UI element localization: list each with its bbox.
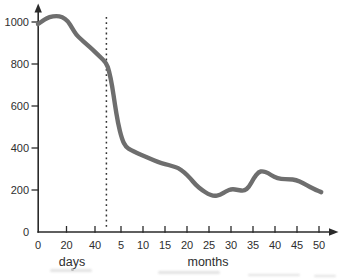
y-tick-label: 1000 [5,16,29,28]
y-tick-label: 200 [11,184,29,196]
x-tick-label-months: 40 [269,239,281,251]
x-tick-label-months: 25 [203,239,215,251]
x-tick-label-months: 10 [137,239,149,251]
x-tick-label-months: 30 [225,239,237,251]
x-tick-label-months: 5 [118,239,124,251]
x-axis-label-months: months [188,255,229,269]
x-tick-label-months: 20 [181,239,193,251]
scan-artifact [158,271,220,274]
y-tick-label: 0 [23,226,29,238]
x-tick-label-months: 35 [247,239,259,251]
y-tick-label: 400 [11,142,29,154]
scan-artifact [248,274,300,276]
x-tick-label-days: 40 [89,239,101,251]
line-chart: 0200400600800100002040510152025303540455… [0,0,344,280]
curve-layer [38,16,321,196]
y-tick-label: 800 [11,58,29,70]
x-tick-label-days: 20 [60,239,72,251]
scanned-chart-figure: 0200400600800100002040510152025303540455… [0,0,344,280]
x-tick-label-months: 15 [159,239,171,251]
y-tick-label: 600 [11,100,29,112]
x-tick-label-days: 0 [35,239,41,251]
data-curve [38,16,321,196]
x-tick-label-months: 45 [291,239,303,251]
x-axis-arrowhead-icon [329,228,339,235]
y-axis-arrowhead-icon [35,4,42,13]
x-axis-label-days: days [59,255,85,269]
x-tick-label-months: 50 [313,239,325,251]
scan-artifact [71,268,74,271]
scan-artifact [314,275,336,277]
ticks-layer [32,22,320,233]
tick-labels-layer: 0200400600800100002040510152025303540455… [5,16,326,251]
